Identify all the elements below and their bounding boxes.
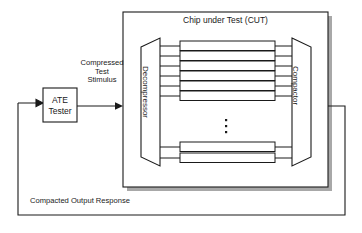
vertical-ellipsis-icon (225, 119, 227, 133)
feedback-arrowhead (18, 100, 43, 107)
scan-chain (160, 71, 292, 81)
scan-chain (160, 142, 292, 152)
ate-label-line2: Tester (43, 106, 77, 117)
compacted-output-response-label: Compacted Output Response (30, 197, 130, 206)
compactor-label: Compactor (291, 66, 300, 105)
decompressor-label: Decompressor (141, 66, 150, 118)
scan-chain (160, 153, 292, 163)
diagram-canvas: Chip under Test (CUT) ATE Tester Compres… (0, 0, 362, 233)
scan-chain (160, 61, 292, 71)
stimulus-arrowhead (115, 102, 123, 110)
compressed-test-stimulus-label: Compressed Test Stimulus (74, 59, 130, 85)
scan-chain (160, 81, 292, 91)
ate-tester-label: ATE Tester (43, 95, 77, 116)
ate-label-line1: ATE (43, 95, 77, 106)
cut-title: Chip under Test (CUT) (123, 16, 328, 26)
scan-chain (160, 51, 292, 61)
scan-chain-group-top (160, 41, 292, 101)
scan-chain (160, 91, 292, 101)
scan-chain (160, 41, 292, 51)
